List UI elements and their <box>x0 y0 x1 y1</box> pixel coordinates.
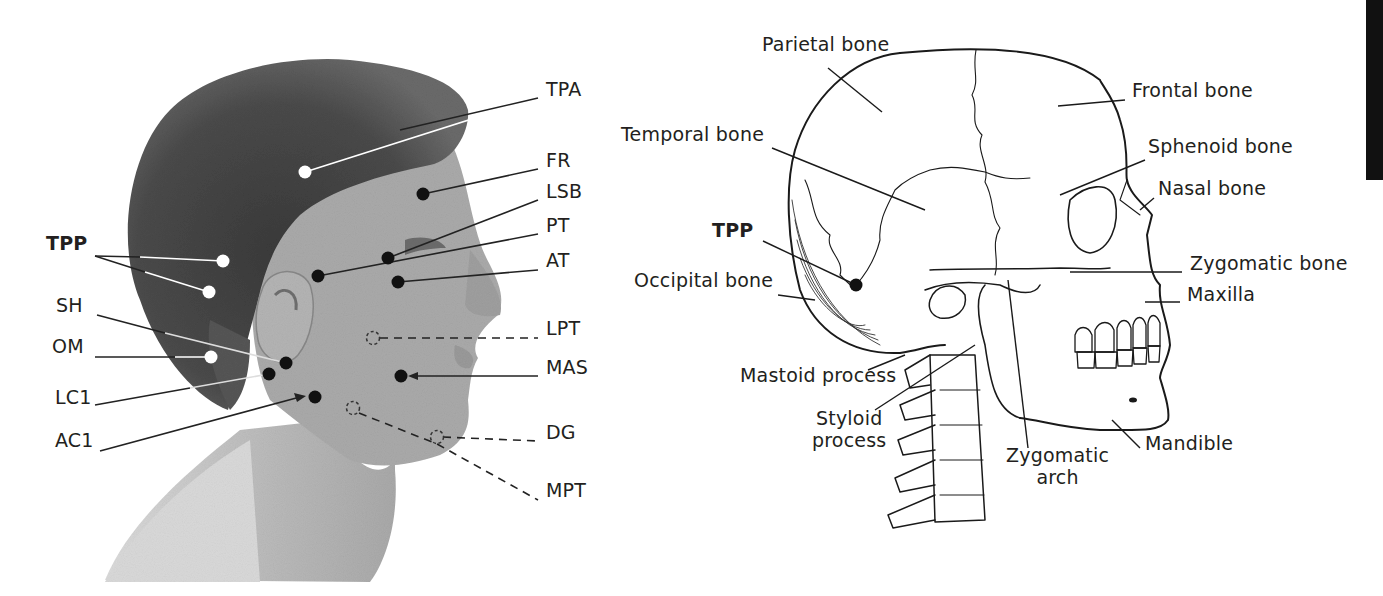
skull-label-parietal: Parietal bone <box>762 33 889 55</box>
head-photo <box>0 0 600 596</box>
point-at <box>392 276 405 289</box>
point-lsb <box>382 252 395 265</box>
page-edge-tab <box>1366 0 1383 180</box>
skull-outline <box>789 49 1170 528</box>
photo-label-mas: MAS <box>546 356 588 378</box>
skull-label-tpp: TPP <box>712 219 753 241</box>
skull-label-zygomatic-arch: Zygomaticarch <box>1006 444 1109 488</box>
skull-label-frontal: Frontal bone <box>1132 79 1253 101</box>
photo-label-at: AT <box>546 249 570 271</box>
photo-label-fr: FR <box>546 149 571 171</box>
point-tpp-lower <box>203 286 216 299</box>
skull-label-maxilla: Maxilla <box>1187 283 1255 305</box>
point-mas <box>395 370 408 383</box>
skull-label-occipital: Occipital bone <box>634 269 773 291</box>
point-tpa <box>299 166 312 179</box>
skull-label-sphenoid: Sphenoid bone <box>1148 135 1293 157</box>
photo-label-dg: DG <box>546 421 576 443</box>
skull-leader-lines <box>763 68 1182 448</box>
point-tpp-upper <box>217 255 230 268</box>
photo-label-lpt: LPT <box>546 317 580 339</box>
skull-drawing <box>600 0 1383 596</box>
photo-silhouette <box>105 59 501 582</box>
point-fr <box>417 188 430 201</box>
head-photo-panel: TPAFRLSBPTATLPTMASDGMPTTPPSHOMLC1AC1 <box>0 0 600 596</box>
photo-label-sh: SH <box>56 294 83 316</box>
photo-label-lc1: LC1 <box>55 386 92 408</box>
photo-label-tpp: TPP <box>46 232 87 254</box>
skull-label-styloid: Styloidprocess <box>812 407 886 451</box>
photo-label-tpa: TPA <box>546 78 581 100</box>
skull-label-mastoid: Mastoid process <box>740 364 896 386</box>
point-ac1 <box>309 391 322 404</box>
point-lc1 <box>263 368 276 381</box>
point-sh <box>280 357 293 370</box>
photo-label-mpt: MPT <box>546 479 586 501</box>
photo-label-om: OM <box>52 335 84 357</box>
point-om <box>205 351 218 364</box>
photo-label-lsb: LSB <box>546 180 582 202</box>
skull-diagram-panel: Parietal boneFrontal boneTemporal boneSp… <box>600 0 1383 596</box>
photo-label-pt: PT <box>546 214 569 236</box>
skull-label-nasal: Nasal bone <box>1158 177 1266 199</box>
point-pt <box>312 270 325 283</box>
photo-label-ac1: AC1 <box>55 429 94 451</box>
skull-label-temporal: Temporal bone <box>621 123 764 145</box>
skull-tpp-marker <box>850 279 863 292</box>
skull-label-zygomatic-bone: Zygomatic bone <box>1190 252 1348 274</box>
skull-label-mandible: Mandible <box>1145 432 1233 454</box>
